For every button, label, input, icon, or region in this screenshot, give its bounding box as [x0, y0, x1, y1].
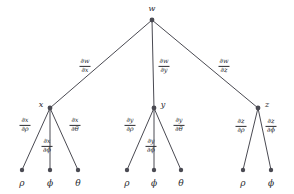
edge-label-lbl-y-theta: ∂y∂θ — [174, 117, 185, 133]
node-label-x-theta: θ — [75, 179, 80, 188]
edge-label-denominator: ∂θ — [70, 126, 79, 133]
edge-label-numerator: ∂w — [219, 58, 230, 65]
edge-label-numerator: ∂y — [174, 117, 183, 124]
node-label-y: y — [161, 101, 166, 109]
node-label-z-rho: ρ — [240, 179, 245, 188]
edge-label-denominator: ∂ρ — [20, 126, 29, 133]
edge-label-numerator: ∂x — [70, 117, 79, 124]
edge-label-lbl-x-theta: ∂x∂θ — [70, 117, 81, 133]
tree-node-z-rho — [241, 168, 245, 172]
node-label-z-phi: ϕ — [268, 179, 274, 188]
node-label-x-rho: ρ — [19, 179, 24, 188]
edge-label-denominator: ∂ϕ — [146, 147, 156, 154]
edge-label-denominator: ∂ϕ — [42, 147, 52, 154]
chain-rule-tree-diagram: wxyzρϕθρϕθρϕ∂w∂x∂w∂y∂w∂z∂x∂ρ∂x∂ϕ∂x∂θ∂y∂ρ… — [0, 0, 294, 194]
edge-label-lbl-z-rho: ∂z∂ρ — [236, 118, 247, 134]
edge-label-numerator: ∂y — [146, 138, 155, 145]
edge-label-lbl-w-y: ∂w∂y — [159, 58, 170, 74]
tree-node-x-phi — [48, 168, 52, 172]
edge-label-numerator: ∂z — [267, 118, 276, 125]
node-label-y-theta: θ — [178, 179, 183, 188]
node-label-z: z — [265, 101, 269, 109]
edge-label-denominator: ∂ϕ — [266, 127, 276, 134]
edge-label-denominator: ∂x — [80, 67, 89, 74]
tree-node-y-rho — [125, 168, 129, 172]
edge-label-numerator: ∂y — [125, 117, 134, 124]
edge-label-lbl-x-rho: ∂x∂ρ — [20, 117, 31, 133]
edge-label-numerator: ∂z — [237, 118, 246, 125]
node-label-y-rho: ρ — [124, 179, 129, 188]
edge-label-lbl-x-phi: ∂x∂ϕ — [42, 138, 53, 154]
tree-node-z — [256, 106, 261, 111]
edge-label-numerator: ∂x — [42, 138, 51, 145]
edge-label-lbl-y-phi: ∂y∂ϕ — [146, 138, 157, 154]
edge-label-numerator: ∂w — [80, 58, 91, 65]
tree-edge-w-x — [50, 20, 152, 108]
tree-node-x-rho — [20, 168, 24, 172]
edge-label-denominator: ∂z — [220, 67, 229, 74]
edge-label-denominator: ∂ρ — [236, 127, 245, 134]
edge-label-denominator: ∂θ — [174, 126, 183, 133]
tree-canvas — [0, 0, 294, 194]
edge-label-denominator: ∂ρ — [125, 126, 134, 133]
edge-label-lbl-w-z: ∂w∂z — [219, 58, 230, 74]
node-label-y-phi: ϕ — [151, 179, 157, 188]
node-label-x: x — [39, 101, 44, 109]
tree-node-w — [150, 18, 155, 23]
tree-node-x-theta — [76, 168, 80, 172]
edge-label-lbl-w-x: ∂w∂x — [80, 58, 91, 74]
edge-label-numerator: ∂w — [159, 58, 170, 65]
tree-node-x — [48, 106, 53, 111]
edge-label-denominator: ∂y — [159, 67, 168, 74]
node-label-x-phi: ϕ — [47, 179, 53, 188]
edge-label-lbl-z-phi: ∂z∂ϕ — [266, 118, 277, 134]
tree-node-y-phi — [152, 168, 156, 172]
tree-node-y — [152, 106, 157, 111]
node-label-w: w — [149, 5, 156, 13]
tree-node-y-theta — [179, 168, 183, 172]
edge-label-lbl-y-rho: ∂y∂ρ — [125, 117, 136, 133]
tree-node-z-phi — [269, 168, 273, 172]
tree-edge-w-y — [152, 20, 154, 108]
edge-label-numerator: ∂x — [20, 117, 29, 124]
